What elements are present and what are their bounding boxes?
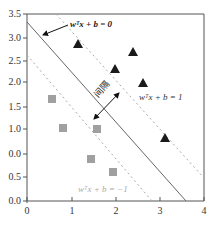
y-tick-label: 0.0 — [9, 148, 22, 159]
triangle-marker — [128, 47, 138, 56]
y-tick-label: 0.0 — [9, 195, 22, 206]
decision-boundary-label: wᵀx + b = 0 — [70, 19, 113, 29]
square-marker — [48, 95, 56, 103]
negative-margin-label: wᵀx + b = −1 — [78, 184, 128, 194]
square-marker — [93, 125, 101, 133]
negative-class-points — [48, 95, 117, 176]
positive-margin-label: wᵀx + b = 1 — [139, 92, 183, 102]
x-tick-label: 4 — [202, 205, 207, 216]
y-tick-label: 1.5 — [9, 101, 22, 112]
y-axis: 3.5 3.0 2.5 2.0 1.5 1.0 0.0 0.5 0.0 — [9, 8, 28, 206]
negative-margin-line — [27, 55, 152, 201]
svm-margin-chart: 3.5 3.0 2.5 2.0 1.5 1.0 0.0 0.5 0.0 0 1 … — [0, 0, 211, 227]
square-marker — [87, 155, 95, 163]
triangle-marker — [110, 64, 120, 73]
x-tick-label: 0 — [25, 205, 30, 216]
triangle-marker — [73, 39, 83, 48]
x-axis: 0 1 2 3 4 — [25, 197, 207, 216]
y-tick-label: 3.0 — [9, 32, 22, 43]
triangle-marker — [138, 78, 148, 87]
figure-caption-area — [0, 216, 211, 227]
triangle-marker — [160, 133, 170, 142]
x-tick-label: 2 — [114, 205, 119, 216]
square-marker — [109, 168, 117, 176]
y-tick-label: 3.5 — [9, 8, 22, 19]
y-tick-label: 0.5 — [9, 171, 22, 182]
x-tick-label: 1 — [70, 205, 75, 216]
equation-annotations: wᵀx + b = 0 wᵀx + b = 1 wᵀx + b = −1 — [43, 19, 183, 194]
margin-label: 间隔 — [91, 79, 111, 100]
decision-boundary-line — [27, 22, 186, 201]
y-tick-label: 2.0 — [9, 76, 22, 87]
square-marker — [59, 124, 67, 132]
pointer-arrow-icon — [43, 25, 68, 35]
y-tick-label: 2.5 — [9, 55, 22, 66]
x-tick-label: 3 — [158, 205, 163, 216]
y-tick-label: 1.0 — [9, 123, 22, 134]
